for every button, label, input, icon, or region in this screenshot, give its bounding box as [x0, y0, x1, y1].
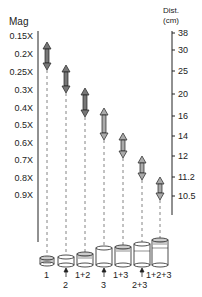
range-arrow-6	[138, 156, 146, 180]
tube-1	[40, 256, 54, 266]
range-arrow-1	[43, 42, 51, 70]
range-arrows	[43, 42, 164, 200]
tube-2-3	[134, 242, 150, 267]
diagram-graphics	[0, 0, 202, 297]
tube-2	[58, 255, 74, 267]
tube-3	[96, 246, 112, 267]
tube-label-1-2-3: 1+2+3	[146, 270, 172, 280]
range-arrow-7	[156, 177, 164, 200]
tube-label-2-3: 2+3	[132, 280, 147, 290]
range-arrow-5	[119, 133, 127, 158]
tube-label-2: 2	[63, 280, 68, 290]
tube-1-3	[115, 245, 131, 267]
range-arrow-4	[100, 108, 108, 140]
range-arrow-3	[81, 88, 89, 117]
tube-label-1-2: 1+2	[75, 270, 90, 280]
range-arrow-2	[62, 65, 70, 93]
tube-1-2-3	[152, 238, 168, 267]
tube-label-1: 1	[44, 270, 49, 280]
tube-label-3: 3	[101, 280, 106, 290]
tube-1-2	[77, 252, 93, 267]
tube-label-1-3: 1+3	[113, 270, 128, 280]
